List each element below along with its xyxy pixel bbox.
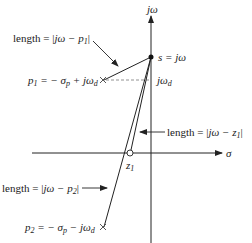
point-s-icon: [149, 55, 154, 60]
level-jwd-label: jωd: [157, 75, 172, 88]
pole-p1-rest: = − σ: [38, 74, 67, 86]
pole-p2-cross-icon: [100, 224, 106, 230]
length-p2-prefix: length = |: [2, 182, 43, 194]
length-p2-suffix: |: [77, 182, 79, 194]
length-p2-expr: jω − p: [43, 182, 72, 194]
level-jwd-text: jω: [157, 74, 168, 86]
vector-s-to-z1: [131, 57, 151, 150]
length-p2-label: length = |jω − p2|: [2, 183, 79, 196]
pole-p1-tail-sub: d: [94, 79, 98, 88]
pole-p1-label: p1 = − σp + jωd: [28, 75, 98, 88]
vector-s-to-p1: [104, 57, 151, 80]
length-p1-suffix: |: [88, 32, 90, 44]
zero-z1-circle-icon: [127, 150, 133, 156]
length-z1-label: length = |jω − z1|: [167, 127, 243, 140]
pole-p2-rest: = − σ: [35, 221, 64, 233]
vector-s-to-p2: [104, 57, 151, 227]
horizontal-axis-label: σ: [226, 148, 231, 159]
pole-p2-label: p2 = − σp − jωd: [25, 222, 95, 235]
level-jwd-sub: d: [168, 79, 172, 88]
pole-p1-tail: + jω: [70, 74, 94, 86]
length-p1-prefix: length = |: [13, 32, 54, 44]
length-z1-expr: jω − z: [208, 126, 236, 138]
vertical-axis-label: jω: [147, 4, 158, 15]
pole-p2-tail-sub: d: [91, 226, 95, 235]
zero-z1-label: z1: [126, 160, 134, 173]
length-z1-prefix: length = |: [167, 126, 208, 138]
point-s-label: s = jω: [158, 52, 186, 63]
length-p1-expr: jω − p: [54, 32, 83, 44]
length-p1-label: length = |jω − p1|: [13, 33, 90, 46]
zero-z1-sub: 1: [130, 164, 134, 173]
pole-p2-tail: − jω: [67, 221, 91, 233]
arrow-length-p1: [93, 41, 118, 66]
length-z1-suffix: |: [240, 126, 242, 138]
